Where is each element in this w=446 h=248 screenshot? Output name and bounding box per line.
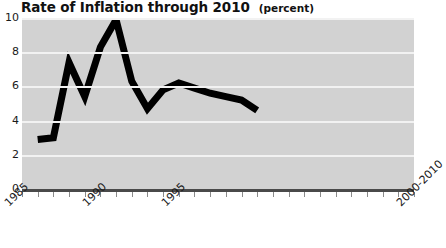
x-axis-tick bbox=[53, 192, 54, 197]
x-axis-tick bbox=[257, 192, 258, 197]
x-axis-tick bbox=[147, 192, 148, 197]
y-axis-tick-label: 2 bbox=[1, 148, 19, 161]
y-axis-tick-label: 10 bbox=[1, 11, 19, 24]
page-title: Rate of Inflation through 2010 bbox=[21, 0, 250, 15]
x-axis-tick bbox=[351, 192, 352, 197]
x-axis-tick bbox=[289, 192, 290, 197]
y-axis-tick-label: 8 bbox=[1, 45, 19, 58]
y-axis-tick-label: 4 bbox=[1, 114, 19, 127]
x-axis-tick bbox=[132, 192, 133, 197]
gridline bbox=[22, 18, 414, 20]
gridline bbox=[22, 155, 414, 157]
x-axis-tick bbox=[226, 192, 227, 197]
x-axis-tick bbox=[116, 192, 117, 197]
x-axis-tick bbox=[273, 192, 274, 197]
y-axis-tick-label: 6 bbox=[1, 79, 19, 92]
x-axis-tick bbox=[69, 192, 70, 197]
chart-units-label: (percent) bbox=[259, 2, 314, 14]
x-axis-tick bbox=[320, 192, 321, 197]
x-axis-tick bbox=[367, 192, 368, 197]
x-axis-tick bbox=[304, 192, 305, 197]
gridline bbox=[22, 52, 414, 54]
y-axis-tick-labels: 1086420 bbox=[0, 0, 19, 248]
x-axis-tick bbox=[194, 192, 195, 197]
x-axis-line bbox=[22, 189, 414, 192]
inflation-line-series bbox=[22, 18, 414, 189]
gridline bbox=[22, 86, 414, 88]
chart-title-row: Rate of Inflation through 2010 (percent) bbox=[21, 0, 314, 16]
x-axis-tick bbox=[38, 192, 39, 197]
x-axis-tick bbox=[383, 192, 384, 197]
x-axis-tick bbox=[242, 192, 243, 197]
x-axis-tick bbox=[336, 192, 337, 197]
gridline bbox=[22, 121, 414, 123]
x-axis-tick bbox=[210, 192, 211, 197]
plot-area bbox=[22, 18, 414, 189]
